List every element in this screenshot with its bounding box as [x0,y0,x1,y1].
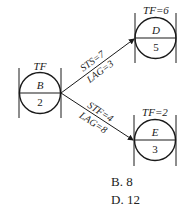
option-b-letter: B. [111,174,123,189]
node-d-tf-label: TF=6 [143,4,169,16]
node-d: TF=6 D 5 [135,4,176,63]
option-b-value: 8 [126,174,133,189]
node-e-duration: 3 [152,143,158,155]
option-b: B. 8 [111,174,133,190]
node-e-name: E [151,126,159,138]
option-d-value: 12 [127,192,140,205]
node-d-duration: 5 [153,41,159,53]
node-b-duration: 2 [37,96,43,108]
node-e: TF=2 E 3 [134,106,176,166]
node-e-tf-label: TF=2 [142,106,168,118]
node-d-name: D [151,24,160,36]
edge-b-to-e: STF=4 LAG=8 [61,93,133,140]
option-d-letter: D. [111,192,124,205]
node-b: TF B 2 [19,60,61,118]
option-d: D. 12 [111,192,140,205]
arrow-b-to-e [61,93,133,140]
node-b-tf-label: TF [34,60,47,72]
edge-b-to-d: STS=7 LAG=3 [61,39,134,93]
node-b-name: B [37,79,44,91]
network-diagram: TF B 2 TF=6 D 5 TF=2 E 3 STS=7 LAG=3 STF… [0,0,185,205]
